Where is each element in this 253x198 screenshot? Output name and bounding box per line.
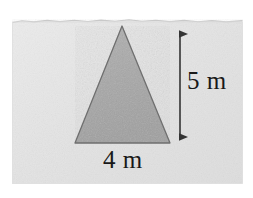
figure-root: 5 m 4 m — [0, 0, 253, 198]
height-dimension-label: 5 m — [187, 68, 227, 93]
base-dimension-label: 4 m — [103, 147, 143, 172]
